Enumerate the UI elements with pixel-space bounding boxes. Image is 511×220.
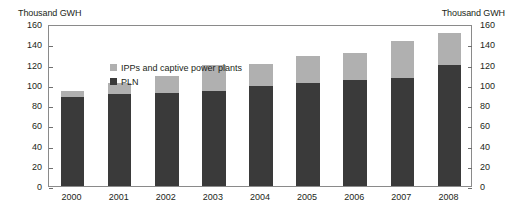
bar-group [249,24,273,186]
y2-axis-tick-mark [468,87,472,88]
y-axis-tick-label: 140 [2,41,42,50]
y-axis-tick-label: 160 [2,21,42,30]
chart-figure: Thousand GWH Thousand GWH 16014012010080… [0,0,511,220]
left-axis-title: Thousand GWH [18,8,81,19]
y-axis-tick-mark [49,127,53,128]
bar-group [391,24,415,186]
y-axis-tick-mark [49,87,53,88]
bar-segment-ipp [438,33,462,64]
bar-segment-pln [343,80,367,186]
y-axis-tick-mark [49,46,53,47]
x-axis-tick-label: 2004 [240,192,280,202]
y-axis-tick-mark [49,148,53,149]
bar-segment-pln [108,94,132,186]
y2-axis-tick-label: 140 [480,41,511,50]
x-axis-tick-label: 2003 [193,192,233,202]
y2-axis-tick-label: 0 [480,183,511,192]
y2-axis-tick-mark [468,46,472,47]
legend-label: PLN [121,77,139,87]
y2-axis-tick-mark [468,148,472,149]
y-axis-tick-mark [49,168,53,169]
bar-segment-ipp [61,91,85,97]
bar-segment-pln [155,93,179,186]
legend-item: PLN [110,76,242,87]
y2-axis-tick-label: 20 [480,163,511,172]
x-axis-tick-label: 2007 [381,192,421,202]
bar-segment-ipp [391,41,415,77]
bar-segment-ipp [249,64,273,86]
y-axis-tick-label: 20 [2,163,42,172]
bar-segment-pln [391,78,415,186]
bar-segment-ipp [343,53,367,79]
plot-area: IPPs and captive power plantsPLN [48,25,472,187]
y2-axis-tick-mark [468,168,472,169]
y2-axis-tick-label: 40 [480,143,511,152]
x-axis-tick-label: 2008 [428,192,468,202]
bar-group [202,24,226,186]
y-axis-tick-mark [49,107,53,108]
bar-segment-ipp [296,56,320,82]
y2-axis-tick-label: 80 [480,102,511,111]
legend-swatch-pln [110,78,117,85]
y2-axis-tick-mark [468,188,472,189]
y-axis-tick-label: 60 [2,122,42,131]
bar-segment-pln [296,83,320,186]
legend-label: IPPs and captive power plants [121,63,242,73]
y-axis-tick-mark [49,188,53,189]
right-axis-title: Thousand GWH [442,8,505,19]
x-axis-tick-label: 2001 [99,192,139,202]
x-axis-tick-label: 2006 [334,192,374,202]
y-axis-tick-mark [49,67,53,68]
bar-segment-pln [202,91,226,186]
bar-group [296,24,320,186]
bar-group [438,24,462,186]
y-axis-tick-label: 0 [2,183,42,192]
y2-axis-tick-label: 60 [480,122,511,131]
bar-segment-pln [249,86,273,186]
x-axis-tick-label: 2005 [287,192,327,202]
bar-group [108,24,132,186]
y2-axis-tick-mark [468,67,472,68]
y2-axis-tick-label: 100 [480,82,511,91]
y-axis-tick-label: 40 [2,143,42,152]
chart-legend: IPPs and captive power plantsPLN [110,62,242,90]
legend-item: IPPs and captive power plants [110,62,242,73]
x-axis-tick-label: 2000 [52,192,92,202]
y2-axis-tick-mark [468,127,472,128]
legend-swatch-ipp [110,64,117,71]
y-axis-tick-label: 80 [2,102,42,111]
bar-group [343,24,367,186]
y-axis-tick-label: 100 [2,82,42,91]
x-axis-tick-label: 2002 [146,192,186,202]
bar-group [155,24,179,186]
y2-axis-tick-label: 120 [480,62,511,71]
y2-axis-tick-mark [468,107,472,108]
bar-group [61,24,85,186]
y-axis-tick-label: 120 [2,62,42,71]
bar-segment-pln [61,97,85,186]
y2-axis-tick-label: 160 [480,21,511,30]
bar-segment-pln [438,65,462,187]
